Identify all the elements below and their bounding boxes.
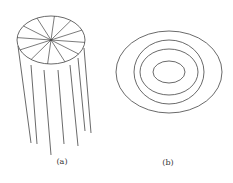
concentric-ellipse — [153, 61, 185, 83]
panel-b-label: (b) — [162, 158, 173, 167]
hanging-line — [84, 48, 91, 133]
concentric-ellipse — [116, 31, 222, 113]
panel-a-cylinder — [17, 16, 91, 155]
concentric-ellipse — [134, 40, 204, 104]
figure-canvas — [0, 0, 233, 183]
panel-b-concentric-ellipses — [116, 31, 222, 113]
hanging-line — [78, 58, 85, 131]
panel-a-label: (a) — [56, 157, 67, 166]
concentric-ellipse — [140, 49, 198, 95]
hanging-line — [31, 65, 37, 144]
hanging-line — [58, 70, 64, 144]
hanging-line — [44, 70, 51, 155]
hanging-line — [70, 65, 78, 146]
hanging-line — [18, 46, 31, 143]
